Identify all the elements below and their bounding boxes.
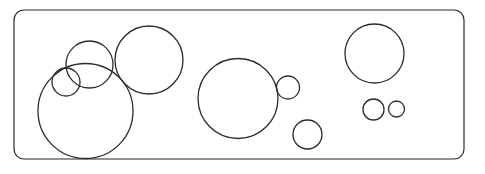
center-right-small-circle bbox=[277, 76, 300, 99]
right-small-circle-left bbox=[363, 99, 384, 120]
center-large-circle bbox=[198, 59, 278, 139]
circles-group bbox=[38, 24, 405, 159]
diagram-canvas bbox=[0, 0, 485, 174]
right-top-large-circle bbox=[345, 24, 404, 83]
center-bottom-small-circle bbox=[293, 120, 322, 149]
right-small-circle-right bbox=[389, 101, 405, 117]
rounded-rectangle-border bbox=[14, 10, 464, 159]
top-left-large-circle bbox=[115, 26, 183, 94]
circles-diagram bbox=[0, 0, 485, 174]
left-cluster-small-circle bbox=[52, 68, 80, 96]
